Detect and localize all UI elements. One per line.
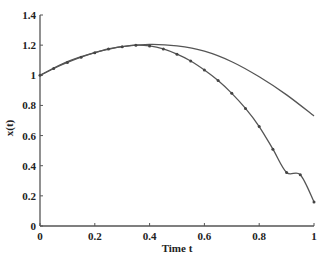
y-tick-label: 0.2 [22,190,36,202]
data-point-marker [217,79,220,82]
data-point-marker [271,148,274,151]
y-tick-label: 1.4 [22,9,36,21]
series-line-2 [40,45,314,202]
line-chart: 00.20.40.60.8100.20.40.60.811.21.4 Time … [0,0,324,261]
data-point-marker [148,44,151,47]
data-point-marker [285,171,288,174]
data-point-marker [39,74,42,77]
x-tick-label: 1 [311,230,317,242]
y-tick-label: 1.2 [22,39,36,51]
x-tick-label: 0.4 [143,230,157,242]
data-point-marker [134,44,137,47]
x-axis-label: Time t [162,242,193,254]
data-point-marker [230,92,233,95]
data-point-marker [93,51,96,54]
y-tick-label: 0.6 [22,130,36,142]
data-point-marker [299,173,302,176]
x-tick-label: 0.8 [252,230,266,242]
x-tick-label: 0 [37,230,43,242]
data-point-marker [80,56,83,59]
x-tick-label: 0.6 [198,230,212,242]
data-point-marker [244,107,247,110]
data-point-marker [189,59,192,62]
y-tick-label: 0 [31,220,37,232]
data-point-marker [313,200,316,203]
x-tick-label: 0.2 [88,230,102,242]
data-point-marker [258,125,261,128]
series-layer [39,44,316,204]
data-point-marker [162,47,165,50]
data-point-marker [176,53,179,56]
y-tick-label: 0.4 [22,160,36,172]
data-point-marker [121,45,124,48]
data-point-marker [203,69,206,72]
axes: 00.20.40.60.8100.20.40.60.811.21.4 [22,9,317,242]
data-point-marker [107,47,110,50]
y-axis-label: x(t) [3,119,16,136]
y-tick-label: 0.8 [22,99,36,111]
data-point-marker [52,67,55,70]
data-point-marker [66,61,69,64]
y-tick-label: 1 [31,69,37,81]
